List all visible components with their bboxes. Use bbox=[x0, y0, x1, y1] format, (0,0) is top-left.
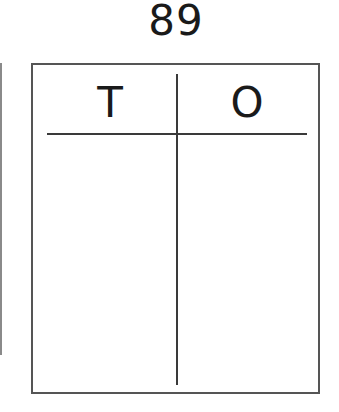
ones-column-header: O bbox=[187, 77, 307, 129]
tens-column-header: T bbox=[50, 77, 170, 129]
header-rule bbox=[47, 133, 307, 135]
number-title: 89 bbox=[0, 0, 339, 44]
place-value-chart: T O bbox=[31, 63, 320, 394]
left-edge-line bbox=[0, 63, 2, 355]
column-divider bbox=[176, 74, 178, 385]
